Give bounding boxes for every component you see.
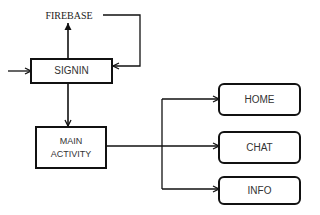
- main-activity-line2: ACTIVITY: [51, 148, 92, 160]
- signin-label: SIGNIN: [31, 59, 112, 83]
- firebase-label: FIREBASE: [36, 9, 102, 23]
- chat-label: CHAT: [219, 132, 300, 163]
- main-activity-line1: MAIN: [60, 135, 83, 147]
- home-label: HOME: [219, 84, 300, 115]
- main-activity-label: MAIN ACTIVITY: [36, 127, 106, 168]
- info-label: INFO: [219, 177, 300, 204]
